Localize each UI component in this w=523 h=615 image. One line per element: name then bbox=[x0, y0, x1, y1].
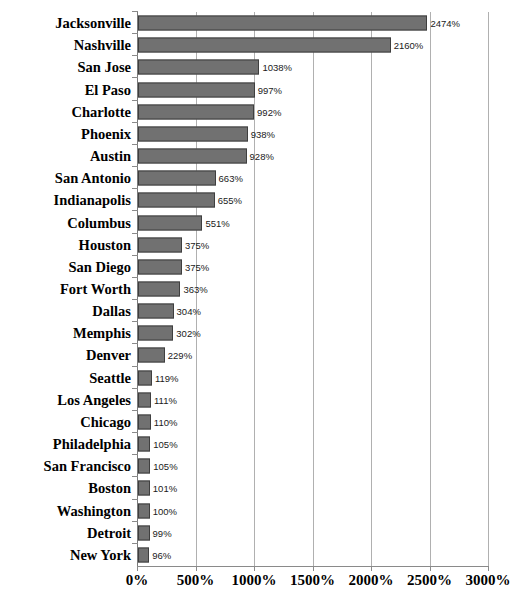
category-label: Boston bbox=[88, 480, 131, 497]
category-label: Indianapolis bbox=[54, 192, 131, 209]
bar-row[interactable]: Philadelphia105% bbox=[0, 433, 523, 455]
y-axis-tick bbox=[132, 432, 138, 433]
y-axis-tick bbox=[132, 343, 138, 344]
bar-row[interactable]: Seattle119% bbox=[0, 367, 523, 389]
y-axis-tick bbox=[132, 33, 138, 34]
bar-value-label: 105% bbox=[153, 439, 177, 450]
bar-value-label: 302% bbox=[176, 328, 200, 339]
category-label: Phoenix bbox=[81, 125, 131, 142]
bar-row[interactable]: Indianapolis655% bbox=[0, 189, 523, 211]
bar[interactable] bbox=[138, 237, 182, 252]
category-label: Washington bbox=[57, 502, 131, 519]
bar-row[interactable]: Boston101% bbox=[0, 477, 523, 499]
y-axis-tick bbox=[132, 521, 138, 522]
bar[interactable] bbox=[138, 16, 427, 31]
y-axis-tick bbox=[132, 499, 138, 500]
category-label: Charlotte bbox=[71, 103, 131, 120]
bar-value-label: 551% bbox=[205, 217, 229, 228]
bar-row[interactable]: Washington100% bbox=[0, 500, 523, 522]
bar-row[interactable]: Phoenix938% bbox=[0, 123, 523, 145]
bar[interactable] bbox=[138, 126, 248, 141]
bar-value-label: 1038% bbox=[262, 62, 292, 73]
bar[interactable] bbox=[138, 503, 150, 518]
y-axis-tick bbox=[132, 454, 138, 455]
y-axis-tick bbox=[132, 476, 138, 477]
x-axis-tick bbox=[254, 566, 255, 571]
category-label: Detroit bbox=[87, 524, 131, 541]
bar[interactable] bbox=[138, 459, 150, 474]
bar-row[interactable]: Jacksonville2474% bbox=[0, 12, 523, 34]
x-axis-tick-label: 2500% bbox=[407, 572, 452, 589]
bar-row[interactable]: Columbus551% bbox=[0, 211, 523, 233]
y-axis-tick bbox=[132, 543, 138, 544]
category-label: Memphis bbox=[73, 325, 131, 342]
bar[interactable] bbox=[138, 215, 202, 230]
x-axis: 0%500%1000%1500%2000%2500%3000% bbox=[0, 566, 523, 594]
y-axis-tick bbox=[132, 210, 138, 211]
bar-chart: Jacksonville2474%Nashville2160%San Jose1… bbox=[0, 0, 523, 572]
bar[interactable] bbox=[138, 149, 247, 164]
category-label: Los Angeles bbox=[57, 391, 131, 408]
bar-row[interactable]: Fort Worth363% bbox=[0, 278, 523, 300]
bar[interactable] bbox=[138, 171, 216, 186]
category-label: Dallas bbox=[92, 303, 131, 320]
bar-value-label: 99% bbox=[153, 527, 172, 538]
bar-row[interactable]: San Francisco105% bbox=[0, 455, 523, 477]
bar-row[interactable]: Nashville2160% bbox=[0, 34, 523, 56]
bar-row[interactable]: Los Angeles111% bbox=[0, 389, 523, 411]
category-label: Chicago bbox=[80, 413, 131, 430]
y-axis-tick bbox=[132, 299, 138, 300]
category-label: Jacksonville bbox=[55, 15, 131, 32]
category-label: Columbus bbox=[67, 214, 131, 231]
bar-row[interactable]: New York96% bbox=[0, 544, 523, 566]
bar[interactable] bbox=[138, 326, 173, 341]
bar-row[interactable]: Detroit99% bbox=[0, 522, 523, 544]
bar-row[interactable]: Dallas304% bbox=[0, 300, 523, 322]
y-axis-tick bbox=[132, 321, 138, 322]
bar-value-label: 663% bbox=[219, 173, 243, 184]
bar-row[interactable]: Chicago110% bbox=[0, 411, 523, 433]
bar-value-label: 229% bbox=[168, 350, 192, 361]
x-axis-tick bbox=[488, 566, 489, 571]
bar-row[interactable]: El Paso997% bbox=[0, 78, 523, 100]
bar[interactable] bbox=[138, 281, 180, 296]
bar[interactable] bbox=[138, 259, 182, 274]
bar-row[interactable]: San Antonio663% bbox=[0, 167, 523, 189]
y-axis-tick bbox=[132, 233, 138, 234]
bar-row[interactable]: Memphis302% bbox=[0, 322, 523, 344]
bar-row[interactable]: San Jose1038% bbox=[0, 56, 523, 78]
bar-row[interactable]: Houston375% bbox=[0, 234, 523, 256]
bar[interactable] bbox=[138, 481, 150, 496]
bar[interactable] bbox=[138, 348, 165, 363]
bar[interactable] bbox=[138, 193, 215, 208]
y-axis-tick bbox=[132, 188, 138, 189]
bar-value-label: 992% bbox=[257, 106, 281, 117]
bar[interactable] bbox=[138, 525, 150, 540]
x-axis-tick bbox=[196, 566, 197, 571]
category-label: Austin bbox=[90, 148, 131, 165]
bar[interactable] bbox=[138, 437, 150, 452]
bar-value-label: 655% bbox=[218, 195, 242, 206]
x-axis-tick-label: 3000% bbox=[466, 572, 511, 589]
bar-value-label: 119% bbox=[155, 372, 179, 383]
y-axis-tick bbox=[132, 11, 138, 12]
bar-row[interactable]: Denver229% bbox=[0, 344, 523, 366]
bar-row[interactable]: Charlotte992% bbox=[0, 101, 523, 123]
bar-row[interactable]: Austin928% bbox=[0, 145, 523, 167]
category-label: Nashville bbox=[74, 37, 131, 54]
bar[interactable] bbox=[138, 547, 149, 562]
bar[interactable] bbox=[138, 304, 174, 319]
bar-row[interactable]: San Diego375% bbox=[0, 256, 523, 278]
bar[interactable] bbox=[138, 60, 259, 75]
bar[interactable] bbox=[138, 414, 151, 429]
x-axis-tick bbox=[430, 566, 431, 571]
bar[interactable] bbox=[138, 392, 151, 407]
bar-value-label: 2160% bbox=[394, 40, 424, 51]
bar[interactable] bbox=[138, 82, 255, 97]
bar[interactable] bbox=[138, 38, 391, 53]
y-axis-tick bbox=[132, 144, 138, 145]
bar[interactable] bbox=[138, 370, 152, 385]
bar-value-label: 2474% bbox=[430, 18, 460, 29]
bar-value-label: 111% bbox=[154, 394, 177, 405]
bar[interactable] bbox=[138, 104, 254, 119]
